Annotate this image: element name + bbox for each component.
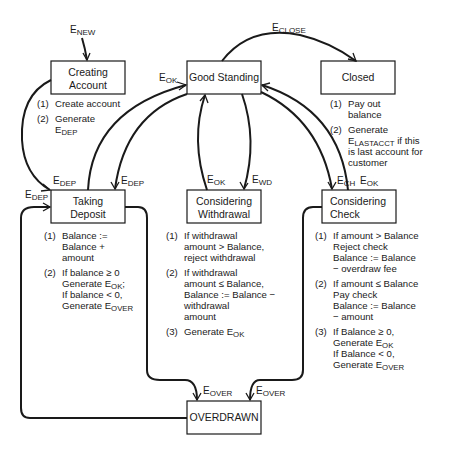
actions-taking-deposit: (1)Balance :=Balance +amount(2)If balanc… xyxy=(44,230,134,313)
action-number: (1) xyxy=(315,230,327,241)
action-line: If Balance ≥ 0, xyxy=(333,326,394,337)
actions-considering-withdrawal: (1)If withdrawalamount > Balance,reject … xyxy=(166,230,276,339)
event-label-wd: EWD xyxy=(252,174,272,187)
action-line: Pay out xyxy=(348,98,381,109)
state-label: Good Standing xyxy=(189,71,259,83)
action-line: Pay check xyxy=(333,289,377,300)
action-line: withdrawal xyxy=(183,300,229,311)
action-number: (3) xyxy=(315,326,327,337)
action-number: (2) xyxy=(37,113,49,124)
state-label: Creating xyxy=(68,66,108,78)
action-line: is last account for xyxy=(348,146,423,157)
action-line: If amount ≤ Balance xyxy=(333,278,418,289)
event-label-over: EOVER xyxy=(256,385,286,398)
action-line: amount xyxy=(62,252,94,263)
action-number: (1) xyxy=(44,230,56,241)
action-line: Generate xyxy=(348,124,388,135)
event-label-dep: EDEP xyxy=(53,175,76,188)
actions-considering-check: (1)If amount > BalanceReject checkBalanc… xyxy=(315,230,419,372)
action-line: Balance + xyxy=(62,241,105,252)
action-line: If amount > Balance xyxy=(333,230,419,241)
event-label-ok: EOK xyxy=(207,174,226,187)
action-line: Create account xyxy=(55,98,120,109)
state-closed: Closed xyxy=(321,61,395,94)
transition-good-to-withdrawal xyxy=(240,94,251,189)
state-label: Account xyxy=(69,79,107,91)
transition-creating-to-deposit xyxy=(22,80,51,191)
action-number: (2) xyxy=(166,267,178,278)
state-good-standing: Good Standing xyxy=(187,61,261,94)
event-label-dep: EDEP xyxy=(121,175,144,188)
actions-closed: (1)Pay outbalance(2)GenerateELASTACCT if… xyxy=(330,98,423,168)
action-number: (3) xyxy=(166,326,178,337)
action-line: Generate EOVER xyxy=(62,300,134,313)
state-label: Considering xyxy=(330,195,386,207)
action-line: reject withdrawal xyxy=(184,252,255,263)
action-line: Balance := Balance xyxy=(333,300,416,311)
action-line: amount > Balance, xyxy=(184,241,264,252)
transition-check-to-overdrawn xyxy=(246,207,322,400)
state-considering-check: Considering Check xyxy=(322,190,396,223)
state-label: Closed xyxy=(342,71,375,83)
state-considering-withdrawal: Considering Withdrawal xyxy=(187,190,261,223)
state-diagram: Creating Account Good Standing Closed Ta… xyxy=(0,0,457,449)
state-overdrawn: OVERDRAWN xyxy=(187,401,261,434)
action-line: amount xyxy=(184,311,216,322)
state-label: Considering xyxy=(196,195,252,207)
action-line: Generate xyxy=(55,113,95,124)
action-line: − overdraw fee xyxy=(333,263,397,274)
action-line: Balance := xyxy=(62,230,108,241)
action-line: If balance < 0, xyxy=(62,289,123,300)
action-line: Balance := Balance − xyxy=(184,289,276,300)
state-label: Taking xyxy=(73,195,104,207)
action-line: If Balance < 0, xyxy=(333,348,395,359)
event-label-over: EOVER xyxy=(203,385,233,398)
action-number: (1) xyxy=(330,98,342,109)
event-label-new: ENEW xyxy=(70,24,96,37)
action-line: EDEP xyxy=(55,124,77,137)
action-number: (2) xyxy=(44,267,56,278)
transition-new xyxy=(82,38,90,60)
event-label-ok: EOK xyxy=(360,175,379,188)
event-label-ok: EOK xyxy=(159,72,178,85)
action-line: Reject check xyxy=(333,241,388,252)
action-line: amount ≤ Balance, xyxy=(184,278,264,289)
action-line: customer xyxy=(348,157,388,168)
state-label: Deposit xyxy=(70,208,106,220)
state-label: OVERDRAWN xyxy=(189,411,258,423)
action-line: If withdrawal xyxy=(184,230,237,241)
action-number: (2) xyxy=(315,278,327,289)
transition-close xyxy=(222,33,356,61)
action-line: Generate EOVER xyxy=(333,359,405,372)
action-number: (1) xyxy=(166,230,178,241)
action-number: (2) xyxy=(330,124,342,135)
action-line: balance xyxy=(348,109,382,120)
action-number: (1) xyxy=(37,98,49,109)
state-creating-account: Creating Account xyxy=(51,61,125,94)
action-line: If balance ≥ 0 xyxy=(62,267,120,278)
action-line: If withdrawal xyxy=(184,267,237,278)
state-label: Withdrawal xyxy=(198,208,250,220)
state-label: Check xyxy=(330,208,361,220)
action-line: Generate EOK xyxy=(184,326,245,339)
action-line: Balance := Balance xyxy=(333,252,416,263)
state-taking-deposit: Taking Deposit xyxy=(51,190,125,223)
action-line: − amount xyxy=(333,311,374,322)
transition-good-to-check xyxy=(261,92,336,189)
